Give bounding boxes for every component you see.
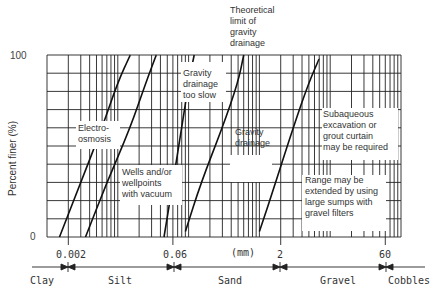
x-unit-label: (mm) <box>231 247 255 258</box>
svg-text:extended by using: extended by using <box>305 186 378 196</box>
class-clay: Clay <box>30 275 54 286</box>
class-gravel: Gravel <box>320 275 356 286</box>
svg-text:drainage: drainage <box>183 79 218 89</box>
class-cobbles: Cobbles <box>388 275 430 286</box>
svg-text:gravity: gravity <box>230 27 257 37</box>
x-tick-2: 2 <box>277 249 283 260</box>
svg-text:osmosis: osmosis <box>78 134 112 144</box>
svg-text:with vacuum: with vacuum <box>121 189 172 199</box>
svg-text:Gravity: Gravity <box>183 68 212 78</box>
soil-class-bar <box>32 262 425 272</box>
svg-text:wellpoints: wellpoints <box>121 178 162 188</box>
annotation-electro-osmosis: Electro- osmosis <box>78 123 112 144</box>
svg-text:Gravity: Gravity <box>235 127 264 137</box>
svg-text:Subaqueous: Subaqueous <box>323 109 374 119</box>
class-silt: Silt <box>108 275 132 286</box>
svg-text:Range may be: Range may be <box>305 175 364 185</box>
svg-text:gravel filters: gravel filters <box>305 208 354 218</box>
x-tick-006: 0.06 <box>163 249 187 260</box>
annotation-gravity-drainage: Gravity drainage <box>235 127 270 148</box>
x-tick-0002: 0.002 <box>56 249 86 260</box>
y-tick-0: 0 <box>30 231 36 242</box>
class-sand: Sand <box>218 275 242 286</box>
svg-text:drainage: drainage <box>230 38 265 48</box>
y-tick-100: 100 <box>10 50 27 61</box>
grain-size-chart: 100 0 Percent finer (%) 0.002 0.06 (mm) … <box>0 0 433 297</box>
svg-text:Wells and/or: Wells and/or <box>122 167 172 177</box>
svg-text:limit of: limit of <box>230 16 257 26</box>
svg-text:excavation or: excavation or <box>323 120 377 130</box>
svg-text:grout curtain: grout curtain <box>323 131 373 141</box>
svg-text:may be required: may be required <box>323 142 388 152</box>
svg-text:too slow: too slow <box>183 90 217 100</box>
svg-text:large sumps with: large sumps with <box>305 197 373 207</box>
svg-text:Theoretical: Theoretical <box>230 5 275 15</box>
annotation-theoretical-limit: Theoretical limit of gravity drainage <box>230 5 275 48</box>
y-axis-label: Percent finer (%) <box>7 121 18 196</box>
svg-text:Electro-: Electro- <box>78 123 109 133</box>
x-tick-60: 60 <box>379 249 391 260</box>
svg-text:drainage: drainage <box>235 138 270 148</box>
